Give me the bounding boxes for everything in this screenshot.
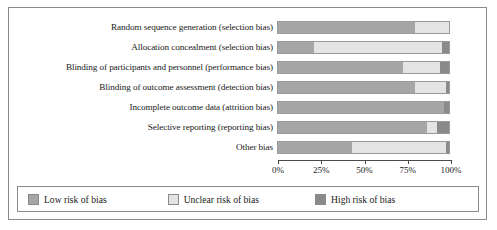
bar-segment-low — [278, 22, 415, 33]
bias-row: Blinding of participants and personnel (… — [9, 60, 486, 74]
bar-segment-low — [278, 122, 427, 133]
axis-tick-label: 75% — [400, 165, 417, 175]
bar-segment-unclear — [403, 62, 441, 73]
bias-row: Blinding of outcome assessment (detectio… — [9, 80, 486, 94]
axis-tick-label: 25% — [313, 165, 330, 175]
bar-segment-unclear — [352, 142, 446, 153]
chart-legend: Low risk of biasUnclear risk of biasHigh… — [17, 186, 479, 212]
bias-row: Selective reporting (reporting bias) — [9, 120, 486, 134]
stacked-bar — [277, 81, 450, 94]
stacked-bar — [277, 121, 450, 134]
bias-category-label: Blinding of participants and personnel (… — [9, 62, 277, 73]
legend-label: Unclear risk of bias — [184, 194, 259, 205]
stacked-bar — [277, 101, 450, 114]
axis-tick — [365, 160, 366, 164]
axis-tick-label: 50% — [356, 165, 373, 175]
risk-of-bias-plot: Random sequence generation (selection bi… — [9, 8, 486, 156]
axis-tick — [408, 160, 409, 164]
bias-category-label: Allocation concealment (selection bias) — [9, 42, 277, 53]
legend-item: Unclear risk of bias — [168, 194, 259, 205]
bar-segment-high — [446, 142, 449, 153]
bar-segment-high — [446, 82, 449, 93]
bar-segment-high — [442, 42, 449, 53]
legend-label: High risk of bias — [331, 194, 395, 205]
bar-segment-unclear — [415, 82, 446, 93]
legend-swatch-icon — [168, 194, 179, 205]
bar-segment-low — [278, 62, 403, 73]
axis-tick — [278, 160, 279, 164]
legend-item: Low risk of bias — [28, 194, 107, 205]
risk-of-bias-figure: Random sequence generation (selection bi… — [8, 7, 487, 220]
bar-segment-unclear — [427, 122, 437, 133]
bias-row: Allocation concealment (selection bias) — [9, 40, 486, 54]
bar-segment-low — [278, 142, 352, 153]
bar-segment-low — [278, 102, 444, 113]
legend-item: High risk of bias — [315, 194, 395, 205]
bar-segment-high — [437, 122, 449, 133]
bias-category-label: Blinding of outcome assessment (detectio… — [9, 82, 277, 93]
stacked-bar — [277, 141, 450, 154]
bias-category-label: Random sequence generation (selection bi… — [9, 22, 277, 33]
stacked-bar — [277, 41, 450, 54]
bar-segment-high — [440, 62, 449, 73]
axis-tick — [321, 160, 322, 164]
bar-segment-high — [444, 102, 449, 113]
stacked-bar — [277, 61, 450, 74]
x-axis: 0%25%50%75%100% — [278, 160, 451, 182]
bias-category-label: Selective reporting (reporting bias) — [9, 122, 277, 133]
bias-row: Incomplete outcome data (attrition bias) — [9, 100, 486, 114]
legend-swatch-icon — [315, 194, 326, 205]
bar-segment-unclear — [314, 42, 442, 53]
bar-segment-low — [278, 82, 415, 93]
bar-segment-unclear — [415, 22, 449, 33]
axis-tick — [451, 160, 452, 164]
bias-row: Random sequence generation (selection bi… — [9, 20, 486, 34]
axis-tick-label: 0% — [272, 165, 284, 175]
stacked-bar — [277, 21, 450, 34]
bias-row: Other bias — [9, 140, 486, 154]
axis-tick-label: 100% — [441, 165, 462, 175]
legend-label: Low risk of bias — [44, 194, 107, 205]
bar-segment-low — [278, 42, 314, 53]
legend-swatch-icon — [28, 194, 39, 205]
bias-category-label: Incomplete outcome data (attrition bias) — [9, 102, 277, 113]
bias-category-label: Other bias — [9, 142, 277, 153]
